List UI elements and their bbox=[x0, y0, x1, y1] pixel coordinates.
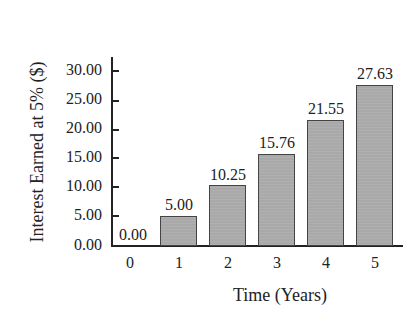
chart: Interest Earned at 5% ($) 0.00 5.00 10.0… bbox=[0, 0, 417, 323]
bar-year-3 bbox=[258, 154, 295, 246]
x-axis-title: Time (Years) bbox=[200, 285, 360, 305]
bar-value-label: 27.63 bbox=[345, 66, 405, 82]
bar-year-1 bbox=[160, 216, 197, 246]
bar-year-5 bbox=[356, 85, 393, 246]
bar-value-label: 5.00 bbox=[149, 197, 209, 213]
y-tick-label: 10.00 bbox=[66, 178, 102, 194]
bar-value-label: 21.55 bbox=[296, 101, 356, 117]
y-tick bbox=[112, 129, 119, 131]
y-axis-line bbox=[111, 57, 113, 247]
bar-value-label: 10.25 bbox=[198, 167, 258, 183]
x-tick-label: 4 bbox=[311, 255, 341, 271]
bar-year-2 bbox=[209, 185, 246, 246]
bar-value-label: 15.76 bbox=[247, 135, 307, 151]
y-tick-label: 25.00 bbox=[66, 91, 102, 107]
y-tick bbox=[112, 100, 119, 102]
y-axis-title: Interest Earned at 5% ($) bbox=[25, 27, 49, 277]
x-tick-label: 5 bbox=[360, 255, 390, 271]
bar-year-4 bbox=[307, 120, 344, 246]
bar-value-label: 0.00 bbox=[103, 227, 163, 243]
x-tick-label: 3 bbox=[262, 255, 292, 271]
y-tick-label: 30.00 bbox=[66, 62, 102, 78]
y-tick-label: 5.00 bbox=[74, 207, 102, 223]
x-tick-label: 2 bbox=[213, 255, 243, 271]
y-tick bbox=[112, 157, 119, 159]
y-tick bbox=[112, 70, 119, 72]
y-tick-label: 20.00 bbox=[66, 120, 102, 136]
y-tick-label: 0.00 bbox=[74, 237, 102, 253]
y-tick-label: 15.00 bbox=[66, 149, 102, 165]
y-tick bbox=[112, 215, 119, 217]
x-tick-label: 1 bbox=[164, 255, 194, 271]
x-tick-label: 0 bbox=[115, 255, 145, 271]
y-tick bbox=[112, 186, 119, 188]
